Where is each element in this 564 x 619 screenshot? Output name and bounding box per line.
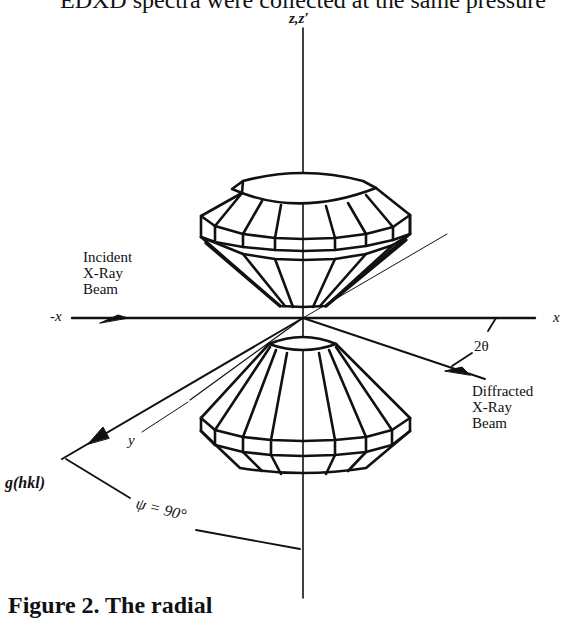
g-hkl-vector-label: g(hkl) xyxy=(4,474,45,492)
two-theta-label: 2θ xyxy=(474,338,489,354)
y-axis-label: y xyxy=(126,432,135,448)
incident-beam-label-line2: X-Ray xyxy=(83,265,123,281)
lower-diamond-anvil xyxy=(190,318,410,474)
diffracted-beam-label-line3: Beam xyxy=(472,415,507,431)
diffracted-beam-label-line1: Diffracted xyxy=(472,383,534,399)
neg-x-axis-label: -x xyxy=(50,308,62,324)
diffracted-arrow-icon xyxy=(445,367,470,375)
z-axis-label: z,z′ xyxy=(288,10,309,26)
psi-angle-label: ψ = 90° xyxy=(134,494,189,524)
diffracted-beam-label-line2: X-Ray xyxy=(472,399,512,415)
figure-caption-fragment: Figure 2. The radial xyxy=(8,592,212,619)
incident-beam-label-line3: Beam xyxy=(83,281,118,297)
upper-diamond-anvil xyxy=(201,173,410,307)
pos-x-axis-label: x xyxy=(552,309,560,325)
incident-beam-label-line1: Incident xyxy=(83,249,133,265)
g-vector-arrow-icon xyxy=(88,427,109,444)
